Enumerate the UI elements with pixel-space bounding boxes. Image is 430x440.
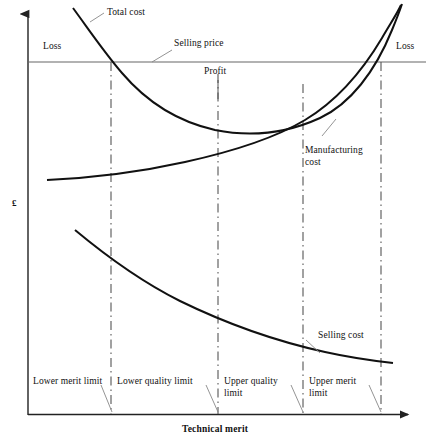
region-label-loss-left: Loss	[43, 41, 61, 53]
series-label-selling-price: Selling price	[174, 38, 224, 50]
series-label-manufacturing-cost: Manufacturing cost	[305, 145, 380, 168]
marker-label-upper-quality-limit: Upper quality limit	[224, 376, 296, 399]
series-label-selling-cost: Selling cost	[318, 330, 364, 342]
selling-cost-curve	[75, 230, 393, 363]
lower-quality-limit-leader	[206, 385, 218, 412]
selling-cost-leader	[306, 340, 320, 353]
technical-merit-cost-chart: Total cost Selling price Loss Loss Profi…	[0, 0, 430, 440]
total-cost-curve	[73, 4, 402, 134]
manufacturing-cost-leader	[322, 119, 336, 136]
region-label-profit: Profit	[204, 66, 226, 78]
marker-label-lower-merit-limit: Lower merit limit	[33, 376, 102, 388]
region-label-loss-right: Loss	[396, 41, 414, 53]
y-axis-label: £	[12, 198, 17, 210]
x-axis-title: Technical merit	[182, 424, 248, 436]
total-cost-leader	[90, 13, 104, 22]
marker-label-upper-merit-limit: Upper merit limit	[309, 376, 375, 399]
series-label-total-cost: Total cost	[107, 7, 145, 19]
lower-merit-limit-leader	[101, 385, 112, 412]
selling-price-leader	[152, 50, 172, 62]
marker-label-lower-quality-limit: Lower quality limit	[117, 376, 193, 388]
